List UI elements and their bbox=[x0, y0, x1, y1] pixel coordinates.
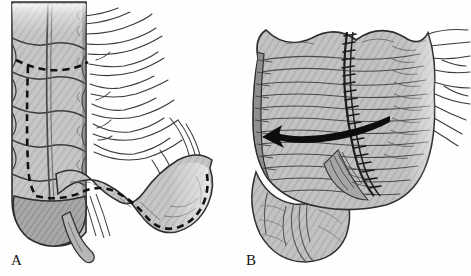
panel-label-a: A bbox=[11, 252, 22, 269]
figure-root: A B bbox=[0, 0, 471, 276]
illustration-canvas bbox=[0, 0, 471, 276]
panel-label-b: B bbox=[246, 252, 257, 269]
colon-top-fade-a bbox=[8, 0, 92, 34]
